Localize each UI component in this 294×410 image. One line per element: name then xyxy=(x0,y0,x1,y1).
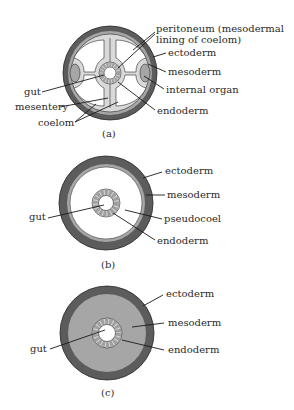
label-gut-a: gut xyxy=(24,86,41,97)
internal-organ-left xyxy=(70,64,80,82)
body-plan-figure: peritoneum (mesodermal lining of coelom)… xyxy=(0,0,294,410)
caption-b: (b) xyxy=(101,259,115,270)
label-ectoderm-b: ectoderm xyxy=(165,165,214,176)
label-peritoneum-1: peritoneum (mesodermal xyxy=(156,23,284,34)
label-mesoderm-a: mesoderm xyxy=(168,66,222,77)
label-ectoderm-a: ectoderm xyxy=(168,47,217,58)
label-endoderm-c: endoderm xyxy=(168,344,220,355)
label-mesentery: mesentery xyxy=(15,101,69,112)
label-internal-organ: internal organ xyxy=(166,84,239,95)
label-mesoderm-c: mesoderm xyxy=(168,317,222,328)
label-pseudocoel: pseudocoel xyxy=(164,213,221,224)
label-coelom: coelom xyxy=(38,117,75,128)
panel-b-pseudocoelomate: ectoderm mesoderm pseudocoel endoderm gu… xyxy=(29,156,221,270)
gut-lumen-a xyxy=(104,67,116,79)
panel-c-acoelomate: ectoderm mesoderm endoderm gut (c) xyxy=(30,286,222,398)
label-mesoderm-b: mesoderm xyxy=(167,189,221,200)
label-peritoneum-2: lining of coelom) xyxy=(156,34,241,45)
panel-a-coelomate: peritoneum (mesodermal lining of coelom)… xyxy=(15,23,284,139)
label-endoderm-a: endoderm xyxy=(157,105,209,116)
label-endoderm-b: endoderm xyxy=(157,235,209,246)
gut-lumen-b xyxy=(99,196,114,211)
caption-a: (a) xyxy=(102,128,116,139)
gut-lumen-c xyxy=(99,325,116,342)
label-ectoderm-c: ectoderm xyxy=(166,288,215,299)
label-gut-c: gut xyxy=(30,343,47,354)
label-gut-b: gut xyxy=(29,211,46,222)
caption-c: (c) xyxy=(101,387,115,398)
